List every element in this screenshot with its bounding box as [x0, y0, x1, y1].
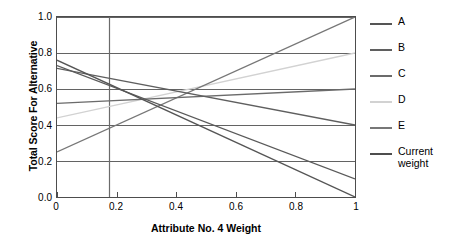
legend-item[interactable]: A [370, 14, 453, 40]
legend-item[interactable]: E [370, 118, 453, 144]
series-line-b [57, 68, 355, 125]
series-line-d [57, 53, 355, 118]
x-axis-title: Attribute No. 4 Weight [56, 222, 356, 234]
series-line-e [57, 17, 355, 152]
legend-item-label: C [398, 67, 406, 79]
x-tick-label: 0.8 [281, 201, 311, 212]
y-tick-label: 0.8 [24, 47, 52, 58]
y-tick-label: 0.2 [24, 156, 52, 167]
y-tick-label: 1.0 [24, 11, 52, 22]
line-chart: Total Score For Alternative 1.0 0.8 0.6 … [0, 0, 453, 244]
legend-swatch-icon [370, 127, 392, 129]
y-tick-label: 0.4 [24, 120, 52, 131]
legend-item[interactable]: Current weight [370, 144, 453, 170]
series-line-a [57, 60, 355, 197]
x-tick-label: 0 [41, 201, 71, 212]
legend-item[interactable]: C [370, 66, 453, 92]
legend-item-label: B [398, 41, 405, 53]
legend-item-label: Current weight [398, 145, 433, 169]
legend-swatch-icon [370, 153, 392, 155]
x-tick-label: 0.2 [101, 201, 131, 212]
legend-item[interactable]: D [370, 92, 453, 118]
legend-swatch-icon [370, 23, 392, 25]
x-tick-label: 0.4 [161, 201, 191, 212]
legend-swatch-icon [370, 49, 392, 51]
y-tick-label: 0.6 [24, 83, 52, 94]
plot-area [56, 16, 356, 198]
x-tick-label: 1 [341, 201, 371, 212]
plot-canvas [57, 17, 355, 197]
legend-item-label: E [398, 119, 405, 131]
legend-swatch-icon [370, 101, 392, 103]
legend-item[interactable]: B [370, 40, 453, 66]
chart-legend: ABCDECurrent weight [370, 14, 453, 170]
x-tick-label: 0.6 [221, 201, 251, 212]
legend-swatch-icon [370, 75, 392, 77]
legend-item-label: A [398, 15, 405, 27]
legend-item-label: D [398, 93, 406, 105]
